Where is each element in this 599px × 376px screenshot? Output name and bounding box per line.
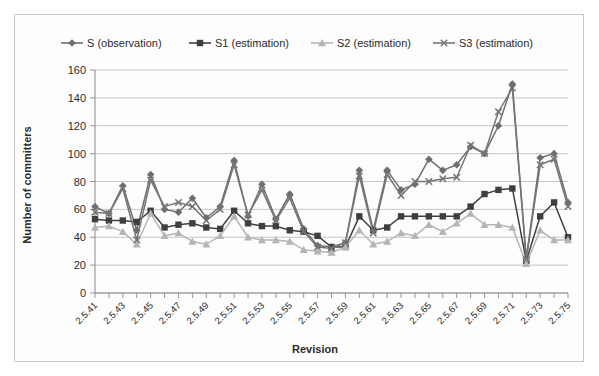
y-tick-label: 60 bbox=[74, 203, 86, 215]
legend-item-4[interactable]: S3 (estimation) bbox=[433, 37, 533, 49]
data-point bbox=[356, 213, 362, 219]
data-point bbox=[92, 216, 98, 222]
legend-item-1[interactable]: S (observation) bbox=[61, 37, 162, 49]
x-tick-label: 2.5.73 bbox=[518, 300, 544, 326]
legend-label: S1 (estimation) bbox=[215, 37, 289, 49]
data-point bbox=[509, 80, 517, 88]
chart-figure: S (observation)S1 (estimation)S2 (estima… bbox=[14, 14, 584, 362]
data-point bbox=[259, 223, 265, 229]
data-point bbox=[134, 219, 140, 225]
chart-series-layer bbox=[91, 80, 572, 267]
y-tick-label: 40 bbox=[74, 231, 86, 243]
data-point bbox=[440, 213, 446, 219]
x-axis-title: Revision bbox=[292, 343, 338, 355]
data-point bbox=[245, 220, 251, 226]
data-point bbox=[425, 221, 433, 228]
data-point bbox=[355, 226, 363, 233]
chart-gridlines bbox=[95, 70, 568, 293]
chart-legend: S (observation)S1 (estimation)S2 (estima… bbox=[61, 37, 533, 49]
data-point bbox=[383, 237, 391, 244]
data-point bbox=[412, 213, 418, 219]
y-tick-label: 140 bbox=[68, 92, 86, 104]
data-point bbox=[509, 185, 515, 191]
x-tick-label: 2.5.49 bbox=[184, 300, 210, 326]
x-tick-label: 2.5.47 bbox=[156, 300, 182, 326]
data-point bbox=[481, 191, 487, 197]
data-point bbox=[439, 228, 447, 235]
data-point bbox=[398, 213, 404, 219]
y-tick-label: 20 bbox=[74, 259, 86, 271]
legend-item-3[interactable]: S2 (estimation) bbox=[311, 37, 411, 49]
y-axis: 020406080100120140160 bbox=[68, 64, 95, 299]
y-tick-label: 80 bbox=[74, 176, 86, 188]
data-point bbox=[495, 187, 501, 193]
y-tick-label: 0 bbox=[80, 287, 86, 299]
data-point bbox=[397, 229, 405, 236]
x-tick-label: 2.5.67 bbox=[435, 300, 461, 326]
x-tick-label: 2.5.45 bbox=[129, 300, 155, 326]
x-tick-label: 2.5.65 bbox=[407, 300, 433, 326]
x-tick-label: 2.5.63 bbox=[379, 300, 405, 326]
data-point bbox=[537, 213, 543, 219]
data-point bbox=[230, 157, 238, 165]
legend-marker bbox=[68, 39, 76, 47]
x-tick-label: 2.5.43 bbox=[101, 300, 127, 326]
x-tick-label: 2.5.41 bbox=[73, 300, 99, 326]
data-point bbox=[467, 203, 473, 209]
data-point bbox=[426, 213, 432, 219]
data-point bbox=[189, 220, 195, 226]
legend-label: S (observation) bbox=[87, 37, 162, 49]
data-point bbox=[273, 223, 279, 229]
x-tick-label: 2.5.61 bbox=[351, 300, 377, 326]
legend-label: S2 (estimation) bbox=[337, 37, 411, 49]
x-tick-label: 2.5.57 bbox=[296, 300, 322, 326]
data-point bbox=[495, 122, 503, 130]
legend-label: S3 (estimation) bbox=[459, 37, 533, 49]
data-point bbox=[453, 219, 461, 226]
data-point bbox=[188, 237, 196, 244]
series-3 bbox=[91, 210, 572, 267]
x-tick-label: 2.5.51 bbox=[212, 300, 238, 326]
committers-line-chart: S (observation)S1 (estimation)S2 (estima… bbox=[15, 15, 583, 361]
y-tick-label: 120 bbox=[68, 120, 86, 132]
x-tick-label: 2.5.59 bbox=[323, 300, 349, 326]
data-point bbox=[217, 226, 223, 232]
data-point bbox=[454, 213, 460, 219]
legend-marker bbox=[197, 40, 203, 46]
data-point bbox=[286, 190, 294, 198]
legend-item-2[interactable]: S1 (estimation) bbox=[189, 37, 289, 49]
data-point bbox=[203, 224, 209, 230]
data-point bbox=[384, 224, 390, 230]
y-tick-label: 100 bbox=[68, 148, 86, 160]
x-tick-label: 2.5.53 bbox=[240, 300, 266, 326]
data-point bbox=[161, 224, 167, 230]
data-point bbox=[467, 210, 475, 217]
x-axis: 2.5.412.5.432.5.452.5.472.5.492.5.512.5.… bbox=[73, 293, 572, 326]
x-tick-label: 2.5.71 bbox=[490, 300, 516, 326]
data-point bbox=[314, 233, 320, 239]
x-tick-label: 2.5.55 bbox=[268, 300, 294, 326]
data-point bbox=[551, 199, 557, 205]
data-point bbox=[120, 217, 126, 223]
data-point bbox=[174, 229, 182, 236]
y-axis-title: Number of committers bbox=[21, 126, 33, 243]
x-tick-label: 2.5.69 bbox=[462, 300, 488, 326]
y-tick-label: 160 bbox=[68, 64, 86, 76]
data-point bbox=[287, 227, 293, 233]
data-point bbox=[536, 154, 544, 162]
data-point bbox=[175, 222, 181, 228]
x-tick-label: 2.5.75 bbox=[546, 300, 572, 326]
